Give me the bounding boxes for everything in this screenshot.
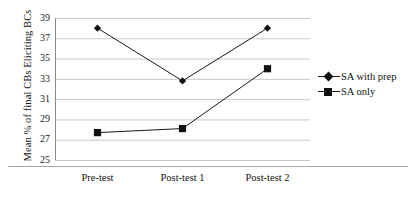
data-point-marker [94,129,101,136]
chart-legend: SA with prep SA only [318,69,414,99]
x-tick-label: Pre-test [81,172,113,183]
diamond-marker-icon [318,70,340,83]
gridlines [55,19,310,161]
data-point-marker [179,125,186,132]
data-point-marker [264,65,271,72]
series-line-0 [98,28,268,81]
x-tick-label: Post-test 1 [160,172,204,183]
data-point-marker [264,25,271,32]
square-marker-icon [318,85,340,98]
legend-item-sa-only: SA only [318,84,414,99]
data-point-marker [179,77,186,84]
legend-item-sa-with-prep: SA with prep [318,69,414,84]
legend-item-label: SA with prep [340,71,396,82]
line-chart: Mean % of final CBs Eliciting BCs 39 37 … [0,0,416,197]
x-tick-label: Post-test 2 [245,172,289,183]
legend-item-label: SA only [340,86,375,97]
data-point-marker [94,25,101,32]
